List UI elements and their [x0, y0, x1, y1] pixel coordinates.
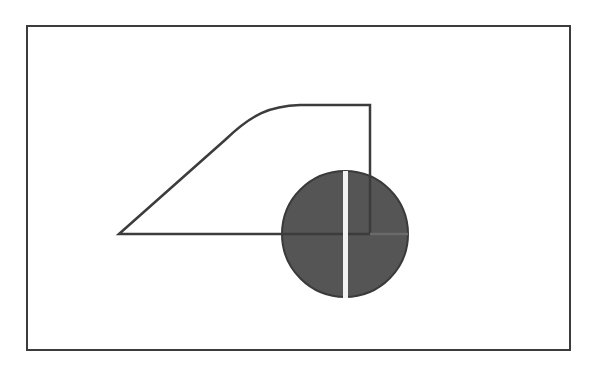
vertical-white-bar [343, 171, 348, 298]
outer-frame [27, 26, 570, 350]
diagram-canvas [0, 0, 601, 370]
